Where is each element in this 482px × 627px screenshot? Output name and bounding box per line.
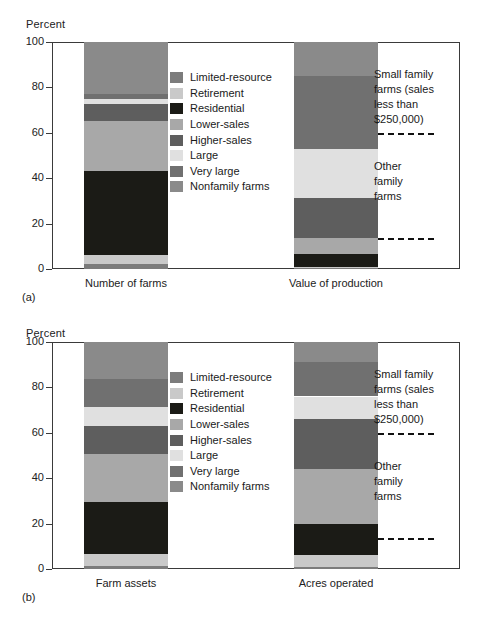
- bar-segment-very-large: [84, 94, 168, 99]
- chart-panel-a: Percent 020406080100 Number of farmsValu…: [0, 0, 482, 313]
- bar-segment-residential: [294, 254, 378, 267]
- dashed-marker-0: [378, 433, 434, 435]
- bar-number-of-farms: [84, 42, 168, 269]
- note-other-family-b: Other family farms: [374, 459, 403, 504]
- legend-swatch-icon: [170, 135, 183, 146]
- legend-item-residential: Residential: [170, 401, 272, 417]
- bar-segment-retirement: [294, 555, 378, 566]
- legend-item-limited-resource: Limited-resource: [170, 70, 272, 86]
- legend-item-lower-sales: Lower-sales: [170, 117, 272, 133]
- legend-swatch-icon: [170, 372, 183, 383]
- legend-swatch-icon: [170, 181, 183, 192]
- legend-item-higher-sales: Higher-sales: [170, 432, 272, 448]
- y-tick-mark-60: [46, 433, 52, 434]
- legend-label: Retirement: [190, 388, 244, 399]
- legend-label: Lower-sales: [190, 119, 249, 130]
- legend-label: Nonfamily farms: [190, 181, 269, 192]
- bar-segment-nonfamily-farms: [84, 342, 168, 379]
- legend-item-limited-resource: Limited-resource: [170, 370, 272, 386]
- y-tick-label-100: 100: [14, 35, 44, 47]
- y-tick-mark-0: [46, 569, 52, 570]
- legend-label: Nonfamily farms: [190, 481, 269, 492]
- legend-label: Very large: [190, 166, 240, 177]
- y-tick-mark-20: [46, 524, 52, 525]
- legend-swatch-icon: [170, 88, 183, 99]
- legend-item-very-large: Very large: [170, 464, 272, 480]
- legend-b: Limited-resourceRetirementResidentialLow…: [170, 370, 272, 495]
- bar-segment-very-large: [84, 379, 168, 406]
- bar-farm-assets: [84, 342, 168, 569]
- dashed-marker-1: [378, 538, 434, 540]
- bar-segment-nonfamily-farms: [84, 42, 168, 94]
- y-tick-mark-40: [46, 478, 52, 479]
- bar-segment-retirement: [84, 554, 168, 565]
- bar-segment-higher-sales: [294, 419, 378, 469]
- legend-swatch-icon: [170, 403, 183, 414]
- legend-label: Residential: [190, 403, 244, 414]
- bar-segment-large: [84, 99, 168, 105]
- y-tick-label-60: 60: [14, 426, 44, 438]
- legend-swatch-icon: [170, 388, 183, 399]
- bar-segment-higher-sales: [294, 198, 378, 239]
- bar-segment-nonfamily-farms: [294, 42, 378, 76]
- legend-swatch-icon: [170, 466, 183, 477]
- y-tick-mark-20: [46, 224, 52, 225]
- y-tick-label-80: 80: [14, 380, 44, 392]
- bar-segment-lower-sales: [294, 469, 378, 523]
- legend-swatch-icon: [170, 150, 183, 161]
- y-tick-label-40: 40: [14, 471, 44, 483]
- legend-swatch-icon: [170, 72, 183, 83]
- bar-segment-nonfamily-farms: [294, 342, 378, 362]
- note-small-family-a: Small family farms (sales less than $250…: [374, 67, 434, 127]
- legend-item-residential: Residential: [170, 101, 272, 117]
- legend-swatch-icon: [170, 419, 183, 430]
- bar-segment-retirement: [294, 267, 378, 268]
- panel-caption-a: (a): [22, 291, 35, 303]
- y-tick-mark-60: [46, 133, 52, 134]
- bar-acres-operated: [294, 342, 378, 569]
- y-tick-label-40: 40: [14, 171, 44, 183]
- legend-label: Limited-resource: [190, 72, 272, 83]
- y-tick-label-0: 0: [14, 562, 44, 574]
- y-tick-label-0: 0: [14, 262, 44, 274]
- y-tick-label-100: 100: [14, 335, 44, 347]
- x-axis-label-0: Number of farms: [44, 277, 208, 289]
- legend-item-higher-sales: Higher-sales: [170, 132, 272, 148]
- legend-item-very-large: Very large: [170, 164, 272, 180]
- panel-caption-b: (b): [22, 591, 35, 603]
- y-tick-mark-100: [46, 42, 52, 43]
- legend-swatch-icon: [170, 119, 183, 130]
- legend-item-lower-sales: Lower-sales: [170, 417, 272, 433]
- bar-segment-residential: [84, 502, 168, 554]
- legend-label: Retirement: [190, 88, 244, 99]
- bar-segment-large: [294, 397, 378, 420]
- bar-segment-limited-resource: [84, 566, 168, 569]
- y-tick-mark-100: [46, 342, 52, 343]
- y-tick-label-20: 20: [14, 217, 44, 229]
- legend-item-large: Large: [170, 448, 272, 464]
- legend-label: Very large: [190, 466, 240, 477]
- dashed-marker-0: [378, 133, 434, 135]
- legend-item-nonfamily-farms: Nonfamily farms: [170, 479, 272, 495]
- legend-label: Higher-sales: [190, 435, 252, 446]
- note-small-family-b: Small family farms (sales less than $250…: [374, 367, 434, 427]
- y-tick-mark-80: [46, 387, 52, 388]
- chart-panel-b: Percent 020406080100 Farm assetsAcres op…: [0, 313, 482, 627]
- bar-segment-limited-resource: [84, 264, 168, 269]
- legend-swatch-icon: [170, 103, 183, 114]
- legend-swatch-icon: [170, 166, 183, 177]
- x-axis-label-1: Acres operated: [254, 577, 418, 589]
- bar-segment-very-large: [294, 362, 378, 396]
- legend-label: Large: [190, 450, 218, 461]
- bar-segment-very-large: [294, 76, 378, 149]
- bar-segment-limited-resource: [294, 567, 378, 569]
- bar-segment-large: [84, 407, 168, 426]
- legend-label: Higher-sales: [190, 135, 252, 146]
- y-tick-label-60: 60: [14, 126, 44, 138]
- bar-segment-lower-sales: [84, 121, 168, 171]
- y-tick-mark-0: [46, 269, 52, 270]
- dashed-marker-1: [378, 238, 434, 240]
- legend-swatch-icon: [170, 435, 183, 446]
- bar-segment-higher-sales: [84, 426, 168, 454]
- bar-segment-higher-sales: [84, 104, 168, 121]
